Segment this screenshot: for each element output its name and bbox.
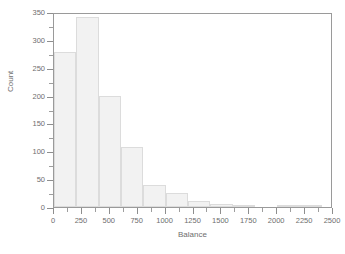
plot-area bbox=[53, 13, 332, 208]
x-axis-minor-tick bbox=[67, 208, 68, 212]
x-axis-tick bbox=[276, 208, 277, 214]
y-axis-tick-label: 150 bbox=[5, 120, 45, 128]
x-axis-title: Balance bbox=[53, 230, 332, 239]
histogram-bar bbox=[277, 205, 299, 207]
x-axis-tick bbox=[53, 208, 54, 214]
y-axis-tick-label: 350 bbox=[5, 9, 45, 17]
x-axis-tick bbox=[304, 208, 305, 214]
histogram-bar bbox=[188, 201, 210, 207]
x-axis-minor-tick bbox=[179, 208, 180, 212]
x-axis-tick bbox=[248, 208, 249, 214]
histogram-figure: 050100150200250300350 025050075010001250… bbox=[0, 0, 345, 254]
histogram-bar bbox=[166, 193, 188, 207]
x-axis-minor-tick bbox=[234, 208, 235, 212]
y-axis-tick-label: 0 bbox=[5, 204, 45, 212]
x-axis-tick bbox=[332, 208, 333, 214]
y-axis-tick-label: 100 bbox=[5, 148, 45, 156]
x-axis-minor-tick bbox=[290, 208, 291, 212]
histogram-bar bbox=[76, 17, 98, 207]
y-axis-title: Count bbox=[6, 71, 15, 92]
histogram-bar bbox=[210, 204, 232, 207]
x-axis-minor-tick bbox=[123, 208, 124, 212]
x-axis-minor-tick bbox=[95, 208, 96, 212]
y-axis-tick-label: 200 bbox=[5, 93, 45, 101]
x-axis-tick bbox=[81, 208, 82, 214]
x-axis-tick-label: 2500 bbox=[312, 216, 345, 225]
x-axis-minor-tick bbox=[151, 208, 152, 212]
histogram-bar bbox=[233, 205, 255, 207]
histogram-bar bbox=[99, 96, 121, 207]
x-axis-tick bbox=[109, 208, 110, 214]
x-axis-tick bbox=[193, 208, 194, 214]
y-axis-tick-label: 300 bbox=[5, 37, 45, 45]
x-axis-tick bbox=[220, 208, 221, 214]
y-axis-tick-label: 50 bbox=[5, 176, 45, 184]
x-axis-tick bbox=[165, 208, 166, 214]
x-axis-minor-tick bbox=[262, 208, 263, 212]
histogram-bar bbox=[143, 185, 165, 207]
histogram-bar bbox=[121, 147, 143, 207]
histogram-bar bbox=[54, 52, 76, 207]
x-axis-tick bbox=[137, 208, 138, 214]
caption-strip bbox=[0, 246, 345, 254]
x-axis-minor-tick bbox=[318, 208, 319, 212]
histogram-bar bbox=[300, 205, 322, 207]
bar-series bbox=[54, 14, 331, 207]
x-axis-minor-tick bbox=[206, 208, 207, 212]
